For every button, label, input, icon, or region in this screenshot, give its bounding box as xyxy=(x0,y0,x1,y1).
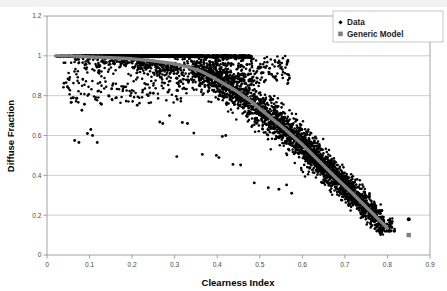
svg-text:0.2: 0.2 xyxy=(128,261,137,268)
svg-text:0.8: 0.8 xyxy=(383,261,392,268)
svg-text:0.4: 0.4 xyxy=(32,172,41,179)
svg-text:0.1: 0.1 xyxy=(85,261,94,268)
svg-text:0.6: 0.6 xyxy=(32,132,41,139)
svg-text:0.6: 0.6 xyxy=(298,261,307,268)
svg-text:0: 0 xyxy=(45,261,49,268)
square-marker-icon xyxy=(338,32,343,37)
svg-text:0.2: 0.2 xyxy=(32,212,41,219)
svg-text:0: 0 xyxy=(38,251,42,258)
svg-text:0.8: 0.8 xyxy=(32,92,41,99)
scan-artifact-band xyxy=(0,0,447,7)
chart-canvas: 00.10.20.30.40.50.60.70.80.9 00.20.40.60… xyxy=(0,0,447,291)
legend-label-data: Data xyxy=(347,18,365,27)
svg-text:0.7: 0.7 xyxy=(340,261,349,268)
svg-text:0.4: 0.4 xyxy=(213,261,222,268)
svg-text:1: 1 xyxy=(38,52,42,59)
svg-text:0.9: 0.9 xyxy=(425,261,434,268)
legend-entry-generic-model[interactable]: Generic Model xyxy=(338,30,403,39)
legend-label-generic-model: Generic Model xyxy=(347,30,403,39)
chart-legend[interactable]: Data Generic Model xyxy=(333,11,443,42)
y-axis-ticks: 00.20.40.60.811.2 xyxy=(32,12,47,258)
x-axis-ticks: 00.10.20.30.40.50.60.70.80.9 xyxy=(45,255,435,268)
svg-text:1.2: 1.2 xyxy=(32,12,41,19)
y-axis-title: Diffuse Fraction xyxy=(5,100,16,173)
svg-text:0.3: 0.3 xyxy=(170,261,179,268)
scatter-chart: 00.10.20.30.40.50.60.70.80.9 00.20.40.60… xyxy=(0,0,447,291)
svg-text:0.5: 0.5 xyxy=(255,261,264,268)
x-axis-title: Clearness Index xyxy=(202,277,276,288)
